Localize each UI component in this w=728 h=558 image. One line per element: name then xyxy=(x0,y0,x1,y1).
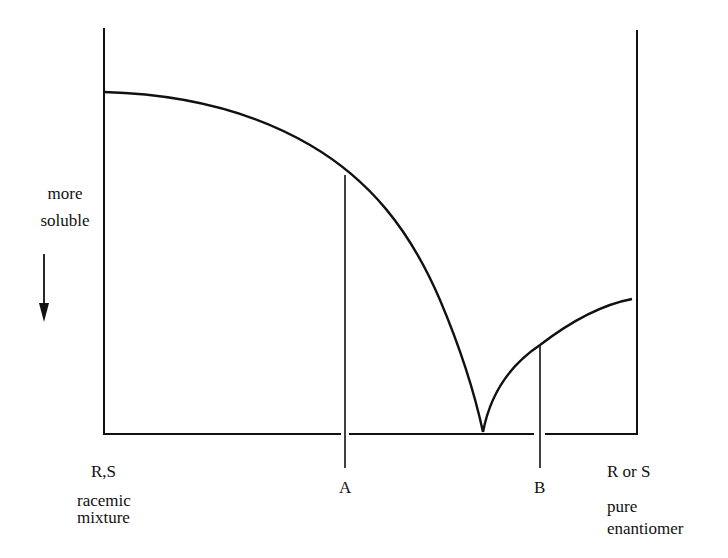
right-endpoint-sublabel: pure enantiomer xyxy=(607,496,683,540)
right-sub1: pure xyxy=(607,496,683,518)
enantiomer-curve xyxy=(483,299,632,432)
marker-a-label: A xyxy=(339,478,351,497)
left-sub2: mixture xyxy=(77,509,131,526)
right-sub2: enantiomer xyxy=(607,518,683,540)
y-axis-label: more soluble xyxy=(20,184,110,230)
y-label-line2: soluble xyxy=(20,211,110,230)
racemate-curve xyxy=(104,92,483,432)
down-arrow-icon xyxy=(39,254,49,322)
left-sub1: racemic xyxy=(77,492,131,509)
right-endpoint-label: R or S xyxy=(607,462,650,481)
left-endpoint-sublabel: racemic mixture xyxy=(77,492,131,526)
y-label-line1: more xyxy=(20,184,110,203)
left-endpoint-label: R,S xyxy=(91,462,116,481)
marker-b-label: B xyxy=(534,478,545,497)
